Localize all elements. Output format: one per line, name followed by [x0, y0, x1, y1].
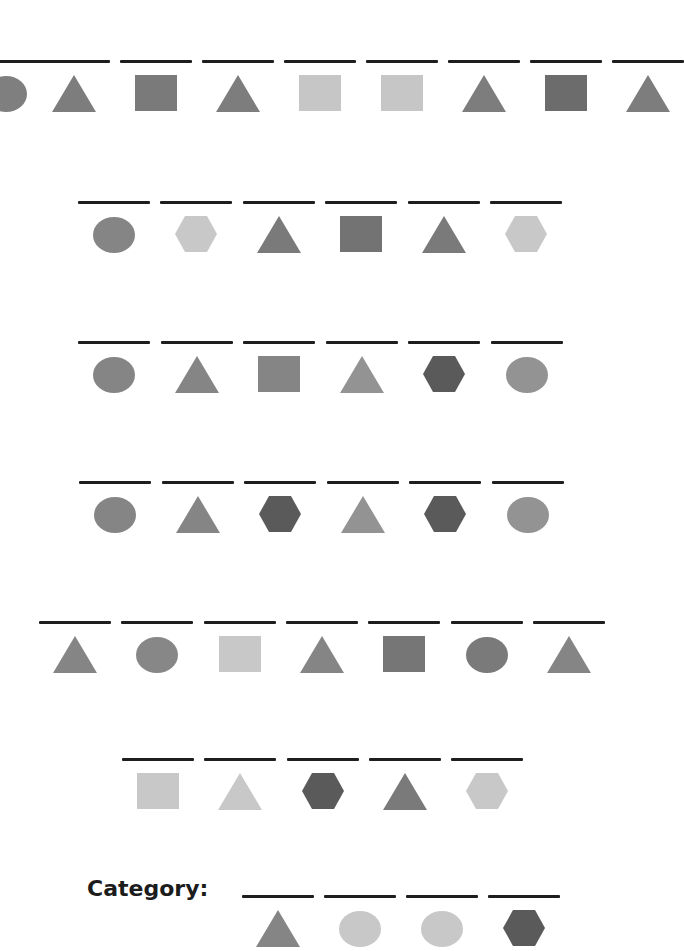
- answer-blank-line[interactable]: [78, 201, 150, 204]
- answer-blank-line[interactable]: [243, 341, 315, 344]
- answer-blank-line[interactable]: [451, 621, 523, 624]
- pattern-cell: [451, 758, 523, 818]
- answer-blank-line[interactable]: [408, 201, 480, 204]
- pattern-cell: [242, 895, 314, 951]
- hexagon-icon: [259, 496, 301, 534]
- answer-blank-line[interactable]: [406, 895, 478, 898]
- pattern-cell: [161, 341, 233, 401]
- pattern-cell: [243, 341, 315, 401]
- answer-blank-line[interactable]: [121, 621, 193, 624]
- answer-blank-line[interactable]: [491, 341, 563, 344]
- answer-blank-line[interactable]: [78, 341, 150, 344]
- pattern-cell: [408, 201, 480, 261]
- square-icon: [219, 636, 261, 674]
- answer-blank-line[interactable]: [492, 481, 564, 484]
- answer-blank-line[interactable]: [409, 481, 481, 484]
- square-icon: [299, 75, 341, 113]
- pattern-cell: [243, 201, 315, 261]
- answer-blank-line[interactable]: [451, 758, 523, 761]
- hexagon-icon: [175, 216, 217, 254]
- answer-blank-line[interactable]: [79, 481, 151, 484]
- circle-icon: [0, 75, 27, 113]
- answer-blank-line[interactable]: [325, 201, 397, 204]
- pattern-cell: [78, 201, 150, 261]
- answer-blank-line[interactable]: [327, 481, 399, 484]
- answer-blank-line[interactable]: [204, 621, 276, 624]
- answer-blank-line[interactable]: [490, 201, 562, 204]
- pattern-cell: [327, 481, 399, 541]
- hexagon-icon: [424, 496, 466, 534]
- answer-blank-line[interactable]: [612, 60, 684, 63]
- hexagon-icon: [302, 773, 344, 811]
- answer-blank-line[interactable]: [122, 758, 194, 761]
- answer-blank-line[interactable]: [368, 621, 440, 624]
- answer-blank-line[interactable]: [39, 621, 111, 624]
- answer-blank-line[interactable]: [448, 60, 520, 63]
- triangle-icon: [216, 75, 260, 113]
- hexagon-icon: [466, 773, 508, 811]
- pattern-row-2: [0, 201, 650, 261]
- triangle-icon: [257, 216, 301, 254]
- pattern-cell: [0, 60, 42, 120]
- pattern-cell: [451, 621, 523, 681]
- answer-blank-line[interactable]: [244, 481, 316, 484]
- answer-blank-line[interactable]: [369, 758, 441, 761]
- pattern-cell: [202, 60, 274, 120]
- pattern-cell: [530, 60, 602, 120]
- pattern-cell: [612, 60, 684, 120]
- pattern-cell: [324, 895, 396, 951]
- circle-icon: [94, 496, 136, 534]
- answer-blank-line[interactable]: [287, 758, 359, 761]
- triangle-icon: [175, 356, 219, 394]
- answer-blank-line[interactable]: [162, 481, 234, 484]
- answer-blank-line[interactable]: [160, 201, 232, 204]
- triangle-icon: [256, 910, 300, 948]
- pattern-cell: [79, 481, 151, 541]
- answer-blank-line[interactable]: [408, 341, 480, 344]
- pattern-cell: [490, 201, 562, 261]
- pattern-row-3: [0, 341, 650, 401]
- pattern-cell: [369, 758, 441, 818]
- hexagon-icon: [505, 216, 547, 254]
- circle-icon: [136, 636, 178, 674]
- answer-blank-line[interactable]: [0, 60, 42, 63]
- triangle-icon: [626, 75, 670, 113]
- answer-blank-line[interactable]: [242, 895, 314, 898]
- pattern-cell: [121, 621, 193, 681]
- answer-blank-line[interactable]: [324, 895, 396, 898]
- answer-blank-line[interactable]: [243, 201, 315, 204]
- pattern-cell: [326, 341, 398, 401]
- pattern-cell: [406, 895, 478, 951]
- triangle-icon: [341, 496, 385, 534]
- pattern-cell: [408, 341, 480, 401]
- answer-blank-line[interactable]: [488, 895, 560, 898]
- pattern-cell: [39, 621, 111, 681]
- triangle-icon: [176, 496, 220, 534]
- hexagon-icon: [423, 356, 465, 394]
- triangle-icon: [422, 216, 466, 254]
- pattern-cell: [284, 60, 356, 120]
- answer-blank-line[interactable]: [202, 60, 274, 63]
- answer-blank-line[interactable]: [204, 758, 276, 761]
- pattern-cell: [366, 60, 438, 120]
- pattern-row-5: [0, 621, 650, 681]
- answer-blank-line[interactable]: [120, 60, 192, 63]
- circle-icon: [507, 496, 549, 534]
- pattern-cell: [287, 758, 359, 818]
- answer-blank-line[interactable]: [284, 60, 356, 63]
- pattern-cell: [448, 60, 520, 120]
- pattern-cell: [286, 621, 358, 681]
- answer-blank-line[interactable]: [161, 341, 233, 344]
- pattern-cell: [491, 341, 563, 401]
- answer-blank-line[interactable]: [326, 341, 398, 344]
- square-icon: [383, 636, 425, 674]
- answer-blank-line[interactable]: [286, 621, 358, 624]
- pattern-cell: [120, 60, 192, 120]
- answer-blank-line[interactable]: [38, 60, 110, 63]
- circle-icon: [93, 356, 135, 394]
- answer-blank-line[interactable]: [366, 60, 438, 63]
- circle-icon: [466, 636, 508, 674]
- answer-blank-line[interactable]: [530, 60, 602, 63]
- answer-blank-line[interactable]: [533, 621, 605, 624]
- pattern-cell: [122, 758, 194, 818]
